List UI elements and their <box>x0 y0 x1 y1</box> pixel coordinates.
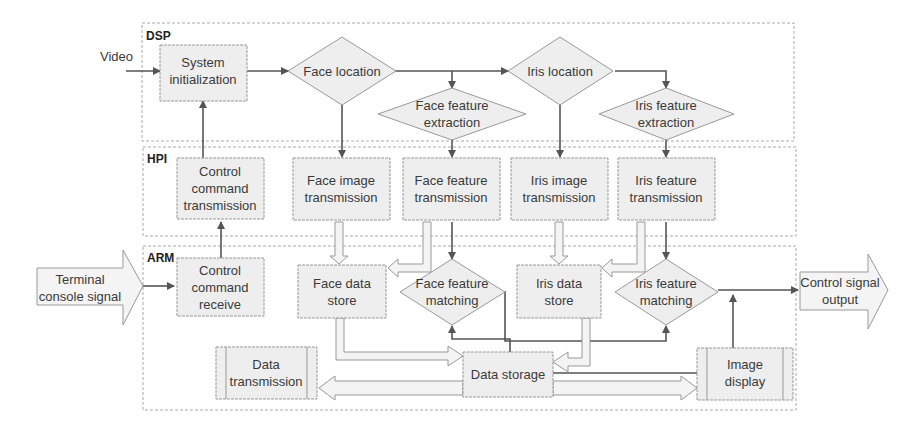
svg-text:extraction: extraction <box>424 115 480 130</box>
iris-feature-to-store-fat-arrow <box>602 222 645 277</box>
iris-image-to-store-fat-arrow <box>550 222 568 264</box>
svg-text:Face data: Face data <box>313 276 372 291</box>
hpi-zone-label: HPI <box>147 152 167 166</box>
iris-location-diamond: Iris location <box>508 37 613 105</box>
control-command-receive-box: Control command receive <box>177 258 264 316</box>
face-location-diamond: Face location <box>288 37 396 105</box>
svg-text:transmission: transmission <box>305 190 378 205</box>
face-feature-transmission-box: Face feature transmission <box>403 158 500 220</box>
svg-text:display: display <box>725 374 766 389</box>
svg-text:Face feature: Face feature <box>415 173 488 188</box>
svg-text:Control: Control <box>199 263 241 278</box>
svg-text:Iris image: Iris image <box>531 173 587 188</box>
control-command-transmission-box: Control command transmission <box>177 158 264 219</box>
image-display-box: Image display <box>697 348 793 400</box>
svg-text:Face image: Face image <box>307 173 375 188</box>
svg-text:Iris feature: Iris feature <box>635 276 696 291</box>
svg-text:transmission: transmission <box>630 190 703 205</box>
svg-text:transmission: transmission <box>184 198 257 213</box>
face-image-transmission-box: Face image transmission <box>293 158 390 220</box>
face-data-store-box: Face data store <box>298 265 386 318</box>
storage-to-face-matching-arrow <box>452 326 510 352</box>
svg-text:Face feature: Face feature <box>416 98 489 113</box>
iris-feature-extraction-diamond: Iris feature extraction <box>599 88 734 140</box>
storage-to-image-display-fat-arrow <box>553 376 697 400</box>
svg-text:transmission: transmission <box>523 190 596 205</box>
video-label: Video <box>100 49 133 64</box>
to-iris-feature-extraction-arrow <box>615 71 666 88</box>
svg-text:Face location: Face location <box>303 64 380 79</box>
svg-text:Control signal: Control signal <box>800 275 880 290</box>
svg-text:Iris feature: Iris feature <box>635 98 696 113</box>
svg-text:Data: Data <box>252 357 280 372</box>
svg-text:initialization: initialization <box>169 72 236 87</box>
svg-text:Iris data: Iris data <box>536 276 583 291</box>
system-block-diagram: DSP HPI ARM <box>0 0 919 426</box>
svg-text:System: System <box>181 55 224 70</box>
control-signal-output-arrow: Control signal output <box>800 254 888 329</box>
svg-text:matching: matching <box>640 293 693 308</box>
iris-feature-transmission-box: Iris feature transmission <box>618 158 715 220</box>
iris-store-to-storage-fat-arrow <box>553 318 590 372</box>
face-feature-to-store-fat-arrow <box>388 222 431 277</box>
svg-text:store: store <box>328 293 357 308</box>
system-initialization-box: System initialization <box>160 45 247 101</box>
dsp-zone-label: DSP <box>146 29 171 43</box>
svg-text:Iris location: Iris location <box>527 64 593 79</box>
face-image-to-store-fat-arrow <box>330 222 348 264</box>
data-transmission-box: Data transmission <box>216 347 317 399</box>
svg-text:output: output <box>822 292 859 307</box>
face-store-to-storage-fat-arrow <box>336 318 463 366</box>
svg-text:Data storage: Data storage <box>471 367 545 382</box>
svg-text:Face feature: Face feature <box>416 276 489 291</box>
svg-text:Control: Control <box>199 164 241 179</box>
svg-text:store: store <box>545 293 574 308</box>
svg-text:command: command <box>191 181 248 196</box>
iris-image-transmission-box: Iris image transmission <box>511 158 608 220</box>
svg-text:extraction: extraction <box>638 115 694 130</box>
svg-text:console signal: console signal <box>39 289 121 304</box>
svg-text:Terminal: Terminal <box>55 272 104 287</box>
svg-text:receive: receive <box>199 297 241 312</box>
data-storage-box: Data storage <box>463 352 553 397</box>
storage-to-transmission-fat-arrow <box>319 376 463 400</box>
iris-data-store-box: Iris data store <box>517 265 601 318</box>
svg-text:command: command <box>191 280 248 295</box>
svg-text:matching: matching <box>426 293 479 308</box>
svg-text:transmission: transmission <box>230 374 303 389</box>
face-feature-extraction-diamond: Face feature extraction <box>378 88 526 140</box>
svg-text:Iris feature: Iris feature <box>635 173 696 188</box>
terminal-console-signal-arrow: Terminal console signal <box>37 250 143 325</box>
svg-text:Image: Image <box>727 357 763 372</box>
arm-zone-label: ARM <box>147 251 174 265</box>
svg-text:transmission: transmission <box>415 190 488 205</box>
